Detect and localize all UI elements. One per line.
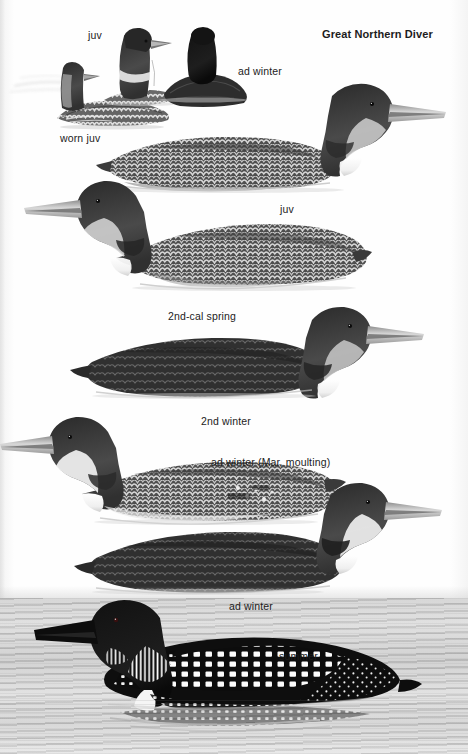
label-juv-mid: juv [280, 204, 294, 215]
label-ad-winter-moulting: ad winter (Mar, moulting) [211, 457, 330, 468]
illustration-plate: Great Northern Diver juv ad winter worn … [0, 0, 468, 754]
label-ad-winter-top: ad winter [238, 66, 282, 77]
label-2nd-winter: 2nd winter [201, 416, 251, 427]
figure-2nd-winter-swimming [70, 307, 424, 399]
label-juv-top: juv [88, 30, 102, 41]
label-ad-winter-lower: ad winter [229, 601, 273, 612]
figure-2nd-cal-spring-swimming [24, 181, 372, 291]
label-summer: summer [279, 651, 318, 662]
plate-title: Great Northern Diver [322, 29, 433, 40]
figure-summer-swimming [0, 590, 468, 754]
label-2nd-cal-spring: 2nd-cal spring [168, 311, 236, 322]
figure-ad-winter-moult-swimming [0, 417, 346, 525]
label-worn-juv: worn juv [60, 133, 100, 144]
figure-ad-winter-head-on [159, 27, 247, 107]
